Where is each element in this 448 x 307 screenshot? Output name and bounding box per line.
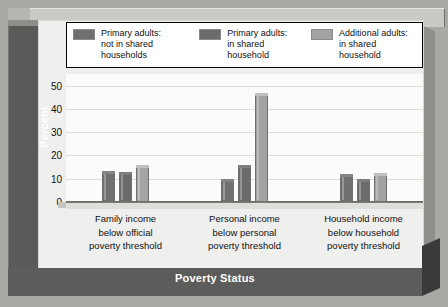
bar — [102, 171, 115, 202]
plot-canvas — [66, 74, 423, 202]
x-axis-title: Poverty Status — [8, 272, 422, 284]
legend-label: Primary adults: in shared household — [227, 28, 287, 62]
bar — [119, 172, 132, 202]
y-axis-tick-label: 20 — [36, 150, 62, 161]
bar — [374, 173, 387, 202]
y-axis-tick-label: 40 — [36, 103, 62, 114]
frame-left-column — [8, 26, 39, 272]
bar — [340, 174, 353, 202]
legend-item: Primary adults: in shared household — [199, 28, 311, 67]
legend-swatch-icon — [311, 29, 333, 40]
legend-swatch-icon — [73, 29, 95, 40]
bar-highlight — [376, 176, 378, 200]
category-label: Household income below household poverty… — [304, 212, 423, 258]
legend-item: Primary adults: not in shared households — [73, 28, 199, 67]
y-axis-tick-label: 10 — [36, 173, 62, 184]
bar-highlight — [121, 175, 123, 200]
bar — [255, 93, 268, 202]
category-label: Personal income below personal poverty t… — [185, 212, 304, 258]
bar-highlight — [240, 168, 242, 200]
bar — [357, 179, 370, 202]
y-axis-tick-label: 50 — [36, 80, 62, 91]
legend-swatch-icon — [199, 29, 221, 40]
bar-highlight — [104, 174, 106, 200]
bar — [136, 165, 149, 202]
plot-area — [66, 74, 423, 202]
gridline — [66, 155, 423, 156]
chart-legend: Primary adults: not in shared households… — [66, 22, 423, 68]
bar-highlight — [138, 168, 140, 200]
chart-screenshot: Percent Primary adults: not in shared ho… — [0, 0, 448, 307]
gridline — [66, 132, 423, 133]
x-axis-category-labels: Family income below official poverty thr… — [66, 212, 423, 258]
bar-highlight — [342, 177, 344, 200]
gridline — [66, 86, 423, 87]
category-label: Family income below official poverty thr… — [66, 212, 185, 258]
plot-floor — [66, 202, 423, 209]
bar-highlight — [223, 182, 225, 200]
gridline — [66, 109, 423, 110]
legend-label: Additional adults: in shared household — [339, 28, 408, 62]
y-axis-tick-labels: 01020304050 — [36, 74, 62, 202]
bar — [221, 179, 234, 202]
legend-label: Primary adults: not in shared households — [101, 28, 161, 62]
bar — [238, 165, 251, 202]
frame-right-edge — [423, 26, 435, 263]
frame-bottom-right-bevel — [422, 238, 440, 296]
bar-highlight — [257, 96, 259, 200]
legend-item: Additional adults: in shared household — [311, 28, 418, 67]
bar-highlight — [359, 182, 361, 200]
y-axis-tick-label: 30 — [36, 127, 62, 138]
